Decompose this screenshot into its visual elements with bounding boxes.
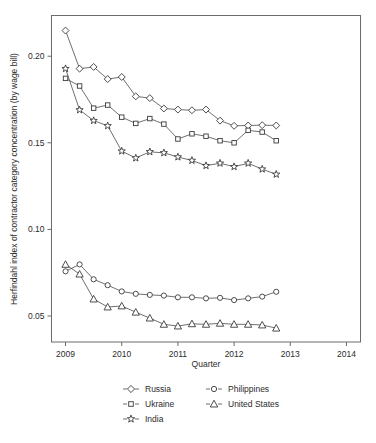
y-tick-label: 0.10	[28, 224, 45, 234]
data-point-marker	[77, 84, 81, 88]
data-point-marker	[246, 128, 250, 132]
data-point-marker	[175, 295, 180, 300]
data-point-marker	[133, 291, 138, 296]
data-point-marker	[217, 295, 222, 300]
x-tick-label: 2012	[225, 349, 244, 359]
y-axis-title: Herfindahl index of contractor category …	[9, 53, 19, 305]
data-point-marker	[63, 76, 67, 80]
y-tick-label: 0.20	[28, 51, 45, 61]
data-point-marker	[91, 106, 95, 110]
data-point-marker	[105, 103, 109, 107]
x-tick-label: 2010	[112, 349, 131, 359]
legend-label: India	[145, 414, 164, 424]
data-point-marker	[134, 121, 138, 125]
x-axis-title: Quarter	[192, 359, 221, 369]
legend-label: Ukraine	[145, 399, 175, 409]
data-point-marker	[189, 295, 194, 300]
x-tick-label: 2009	[56, 349, 75, 359]
x-tick-label: 2014	[337, 349, 356, 359]
herfindahl-index-line-chart: 0.050.100.150.20 20092010201120122013201…	[0, 0, 376, 443]
data-point-marker	[176, 137, 180, 141]
data-point-marker	[77, 262, 82, 267]
legend-label: Russia	[145, 384, 171, 394]
data-point-marker	[91, 277, 96, 282]
data-point-marker	[232, 141, 236, 145]
y-tick-label: 0.05	[28, 311, 45, 321]
data-point-marker	[203, 296, 208, 301]
data-point-marker	[274, 289, 279, 294]
y-tick-label: 0.15	[28, 138, 45, 148]
data-point-marker	[148, 116, 152, 120]
legend-marker-square	[129, 402, 134, 407]
data-point-marker	[260, 294, 265, 299]
data-point-marker	[162, 122, 166, 126]
chart-figure: 0.050.100.150.20 20092010201120122013201…	[0, 0, 376, 443]
chart-background	[0, 0, 376, 443]
x-tick-label: 2013	[281, 349, 300, 359]
legend-label: Philippines	[228, 384, 269, 394]
data-point-marker	[147, 292, 152, 297]
data-point-marker	[232, 298, 237, 303]
data-point-marker	[190, 132, 194, 136]
legend-marker-circle	[211, 386, 216, 391]
data-point-marker	[105, 283, 110, 288]
data-point-marker	[119, 289, 124, 294]
data-point-marker	[274, 139, 278, 143]
data-point-marker	[246, 296, 251, 301]
x-tick-label: 2011	[169, 349, 188, 359]
data-point-marker	[161, 293, 166, 298]
data-point-marker	[260, 130, 264, 134]
legend-label: United States	[228, 399, 279, 409]
data-point-marker	[218, 139, 222, 143]
data-point-marker	[204, 134, 208, 138]
data-point-marker	[63, 269, 68, 274]
data-point-marker	[119, 115, 123, 119]
